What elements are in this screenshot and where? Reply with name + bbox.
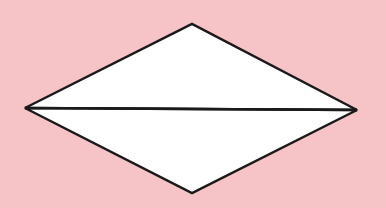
upper-triangle <box>25 24 357 110</box>
lower-triangle <box>25 108 357 193</box>
rhombus-diagram <box>0 0 386 208</box>
diagram-canvas <box>0 0 386 208</box>
